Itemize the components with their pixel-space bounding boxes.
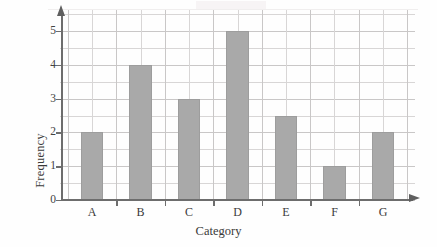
x-axis-arrowhead-icon <box>409 194 420 202</box>
gridline-vertical <box>407 10 408 200</box>
gridline-vertical <box>68 10 69 200</box>
gridline-vertical <box>213 10 214 200</box>
x-tick-label-e: E <box>271 205 301 219</box>
bar-g <box>372 132 395 200</box>
x-tick-label-b: B <box>126 205 156 219</box>
y-tick-label: 3 <box>36 93 56 105</box>
x-axis-title: Category <box>0 224 437 239</box>
y-tick-mark <box>56 200 62 201</box>
gridline-vertical <box>359 10 360 200</box>
bar-d <box>226 31 249 200</box>
bar-b <box>129 65 152 200</box>
bar-chart-figure: 012345 ABCDEFG Frequency Category <box>0 0 437 247</box>
y-tick-mark <box>56 31 62 32</box>
y-tick-mark <box>56 65 62 66</box>
y-axis-title: Frequency <box>33 111 48 211</box>
x-tick-mark <box>116 200 117 206</box>
gridline-vertical <box>116 10 117 200</box>
y-tick-label: 5 <box>36 25 56 37</box>
x-axis-line <box>61 199 413 201</box>
bar-c <box>178 99 201 200</box>
x-tick-mark <box>165 200 166 206</box>
x-tick-label-d: D <box>223 205 253 219</box>
x-tick-mark <box>359 200 360 206</box>
plot-area <box>60 10 415 200</box>
y-axis-line <box>61 14 63 201</box>
y-axis-title-host: Frequency <box>22 65 38 175</box>
bar-a <box>81 132 104 200</box>
bar-e <box>275 116 298 201</box>
gridline-vertical <box>262 10 263 200</box>
y-tick-label: 4 <box>36 59 56 71</box>
x-tick-mark <box>213 200 214 206</box>
x-tick-mark <box>310 200 311 206</box>
y-tick-mark <box>56 132 62 133</box>
x-tick-mark <box>262 200 263 206</box>
y-tick-mark <box>56 166 62 167</box>
x-tick-label-f: F <box>319 205 349 219</box>
x-tick-label-g: G <box>368 205 398 219</box>
gridline-vertical <box>310 10 311 200</box>
x-tick-label-a: A <box>77 205 107 219</box>
y-tick-mark <box>56 99 62 100</box>
gridline-vertical <box>165 10 166 200</box>
bar-f <box>323 166 346 200</box>
y-axis-arrowhead-icon <box>57 5 65 16</box>
x-tick-label-c: C <box>174 205 204 219</box>
